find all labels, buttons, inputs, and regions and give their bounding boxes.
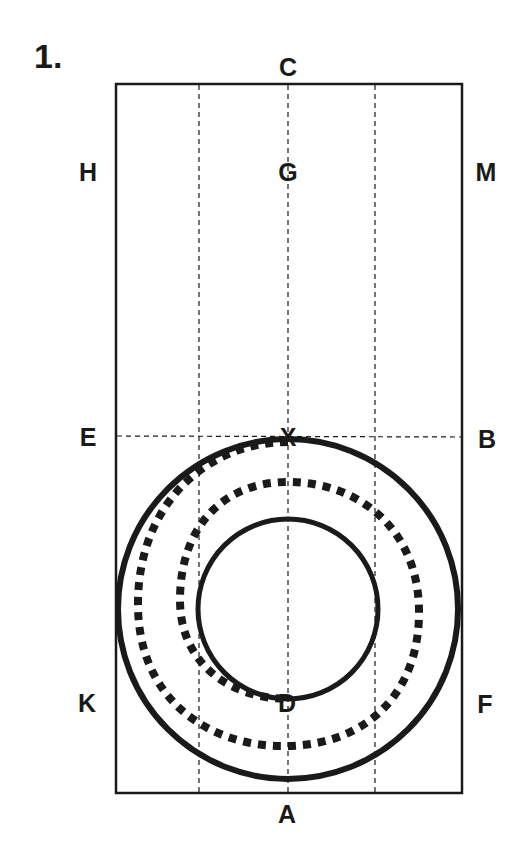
label-d: D [278,689,296,717]
label-b: B [478,425,496,453]
label-a: A [278,800,296,828]
label-h: H [79,158,97,186]
label-g: G [278,158,297,186]
label-f: F [477,690,492,718]
label-e: E [80,423,97,451]
label-x: X [280,423,297,451]
label-k: K [78,689,96,717]
label-c: C [279,53,297,81]
figure-number: 1. [34,37,62,75]
label-m: M [476,158,497,186]
diagram-canvas: 1. X C G H M E B K F D A [0,0,527,862]
